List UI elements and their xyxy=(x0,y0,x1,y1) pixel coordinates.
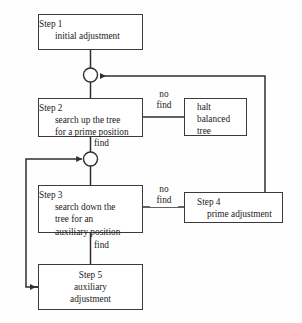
node-step5-heading: Step 5 xyxy=(39,269,142,281)
edge-label-step2-no-find: no find xyxy=(150,89,178,112)
node-step1[interactable]: Step 1 initial adjustment xyxy=(38,14,143,50)
flowchart-canvas: Step 1 initial adjustment Step 2 search … xyxy=(0,0,302,323)
node-step2-body-line1: search up the tree xyxy=(39,114,142,126)
node-step2[interactable]: Step 2 search up the tree for a prime po… xyxy=(38,98,143,137)
node-step3-heading: Step 3 xyxy=(39,189,142,201)
node-step1-body: initial adjustment xyxy=(39,30,142,42)
node-step4-body: prime adjustment xyxy=(185,208,282,220)
edge-label-step2-find-neg: find xyxy=(150,100,178,111)
merge-junction-1-circle xyxy=(84,68,98,82)
node-step3-body-line3: auxiliary position xyxy=(39,226,142,238)
node-halt-line3: tree xyxy=(185,125,246,137)
node-halt-line2: balanced xyxy=(185,113,246,125)
node-step4[interactable]: Step 4 prime adjustment xyxy=(184,192,283,223)
edge-label-step2-find: find xyxy=(94,138,120,149)
edge-label-step2-no: no xyxy=(150,89,178,100)
node-step5[interactable]: Step 5 auxiliary adjustment xyxy=(38,264,143,310)
node-halt-line1: halt xyxy=(185,101,246,113)
edge-label-step3-find: find xyxy=(94,240,120,251)
node-step5-body-line1: auxiliary xyxy=(39,281,142,293)
node-step2-heading: Step 2 xyxy=(39,102,142,114)
edge-label-step3-no-find: no find xyxy=(150,184,178,207)
node-step1-heading: Step 1 xyxy=(39,18,142,30)
node-step5-body-line2: adjustment xyxy=(39,293,142,305)
merge-junction-2-circle xyxy=(84,152,98,166)
node-step3-body-line1: search down the xyxy=(39,201,142,213)
node-step3-body-line2: tree for an xyxy=(39,213,142,225)
edge-label-step3-find-neg: find xyxy=(150,195,178,206)
node-halt-balanced-tree[interactable]: halt balanced tree xyxy=(184,98,247,136)
node-step3[interactable]: Step 3 search down the tree for an auxil… xyxy=(38,185,143,233)
edge-label-step3-no: no xyxy=(150,184,178,195)
node-step4-heading: Step 4 xyxy=(185,196,282,208)
node-step2-body-line2: for a prime position xyxy=(39,126,142,138)
